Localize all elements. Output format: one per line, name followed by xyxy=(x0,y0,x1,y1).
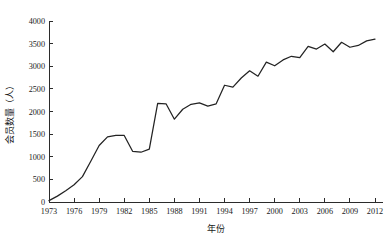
x-axis-title: 年份 xyxy=(207,223,225,234)
x-tick-label: 1973 xyxy=(41,207,57,216)
x-tick-label: 2012 xyxy=(367,207,383,216)
y-tick-label: 3000 xyxy=(29,62,45,71)
x-tick-label: 1994 xyxy=(216,207,232,216)
x-tick-label: 1997 xyxy=(241,207,257,216)
y-tick-label: 3500 xyxy=(29,40,45,49)
x-tick-label: 1991 xyxy=(191,207,207,216)
x-tick-label: 2009 xyxy=(342,207,358,216)
y-tick-label: 1000 xyxy=(29,153,45,162)
y-tick-label: 500 xyxy=(33,175,45,184)
x-tick-label: 2006 xyxy=(317,207,333,216)
y-axis-title: 会员数量（人） xyxy=(4,81,15,144)
y-tick-label: 2000 xyxy=(29,108,45,117)
x-tick-label: 1982 xyxy=(116,207,132,216)
y-tick-label: 2500 xyxy=(29,85,45,94)
y-tick-label: 0 xyxy=(41,198,45,207)
x-tick-label: 1979 xyxy=(91,207,107,216)
x-axis-ticks: 1973197619791982198519881991199419972000… xyxy=(41,198,383,216)
x-tick-label: 1976 xyxy=(66,207,82,216)
line-chart-svg: 05001000150020002500300035004000 1973197… xyxy=(0,0,391,241)
y-tick-label: 1500 xyxy=(29,130,45,139)
x-tick-label: 1988 xyxy=(166,207,182,216)
x-tick-label: 2003 xyxy=(292,207,308,216)
data-series-line xyxy=(49,39,375,201)
x-tick-label: 1985 xyxy=(141,207,157,216)
chart-container: 05001000150020002500300035004000 1973197… xyxy=(0,0,391,241)
y-tick-label: 4000 xyxy=(29,17,45,26)
x-tick-label: 2000 xyxy=(267,207,283,216)
